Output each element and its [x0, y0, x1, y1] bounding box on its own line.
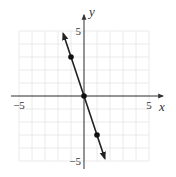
x-axis-label: x	[158, 99, 165, 114]
x-tick-label-5: 5	[146, 99, 152, 111]
data-point	[81, 93, 87, 99]
data-point	[68, 54, 74, 60]
y-tick-label-5: 5	[76, 25, 82, 37]
y-axis-label: y	[87, 4, 95, 19]
y-tick-label-neg5: −5	[69, 155, 81, 167]
coordinate-plane: −5 5 5 −5 x y	[0, 0, 176, 177]
x-tick-label-neg5: −5	[13, 99, 25, 111]
data-point	[94, 132, 100, 138]
